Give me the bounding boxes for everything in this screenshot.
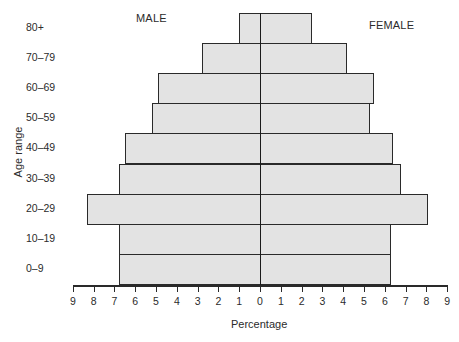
age-category-label: 10–19 — [26, 232, 55, 244]
male-bar — [119, 254, 261, 285]
age-category-label: 80+ — [26, 21, 44, 33]
x-tick — [198, 285, 199, 292]
female-bar — [260, 254, 391, 285]
x-tick-label: 4 — [169, 295, 185, 307]
male-bar — [239, 13, 261, 44]
male-bar — [202, 43, 261, 74]
x-tick — [343, 285, 344, 292]
age-category-label: 40–49 — [26, 141, 55, 153]
x-tick-label: 0 — [252, 295, 268, 307]
age-category-label: 0–9 — [26, 262, 44, 274]
x-tick-label: 8 — [418, 295, 434, 307]
population-pyramid-chart: MALE FEMALE Age range Percentage 80+70–7… — [0, 0, 459, 342]
female-bar — [260, 103, 370, 134]
center-line — [260, 13, 262, 285]
x-tick — [302, 285, 303, 292]
x-tick — [447, 285, 448, 292]
x-tick — [94, 285, 95, 292]
age-category-label: 30–39 — [26, 172, 55, 184]
male-bar — [152, 103, 261, 134]
age-category-label: 20–29 — [26, 202, 55, 214]
x-tick — [114, 285, 115, 292]
x-tick — [260, 285, 261, 292]
male-bar — [125, 133, 261, 164]
male-title: MALE — [136, 12, 167, 24]
male-bar — [119, 164, 261, 195]
female-bar — [260, 224, 391, 255]
female-bar — [260, 164, 401, 195]
x-tick — [218, 285, 219, 292]
x-tick-label: 6 — [377, 295, 393, 307]
x-tick-label: 2 — [294, 295, 310, 307]
x-tick-label: 1 — [273, 295, 289, 307]
x-tick — [322, 285, 323, 292]
x-tick-label: 2 — [210, 295, 226, 307]
female-bar — [260, 13, 312, 44]
female-bar — [260, 194, 428, 225]
x-tick-label: 9 — [65, 295, 81, 307]
x-tick — [156, 285, 157, 292]
x-tick-label: 5 — [148, 295, 164, 307]
male-bar — [87, 194, 261, 225]
male-bar — [119, 224, 261, 255]
x-tick — [177, 285, 178, 292]
x-tick-label: 8 — [86, 295, 102, 307]
age-category-label: 60–69 — [26, 81, 55, 93]
x-tick — [385, 285, 386, 292]
x-tick-label: 7 — [106, 295, 122, 307]
age-category-label: 50–59 — [26, 111, 55, 123]
x-tick-label: 9 — [439, 295, 455, 307]
female-title: FEMALE — [369, 19, 414, 31]
x-tick-label: 3 — [190, 295, 206, 307]
x-tick — [364, 285, 365, 292]
x-axis-label: Percentage — [231, 318, 287, 330]
female-bar — [260, 133, 393, 164]
male-bar — [158, 73, 261, 104]
x-tick — [73, 285, 74, 292]
x-tick — [406, 285, 407, 292]
x-tick-label: 6 — [127, 295, 143, 307]
x-tick — [239, 285, 240, 292]
age-category-label: 70–79 — [26, 51, 55, 63]
x-tick-label: 7 — [398, 295, 414, 307]
female-bar — [260, 43, 347, 74]
x-tick — [281, 285, 282, 292]
y-axis-label: Age range — [12, 124, 24, 180]
female-bar — [260, 73, 374, 104]
x-tick — [135, 285, 136, 292]
x-tick-label: 4 — [335, 295, 351, 307]
x-tick — [426, 285, 427, 292]
x-tick-label: 3 — [314, 295, 330, 307]
x-tick-label: 5 — [356, 295, 372, 307]
x-tick-label: 1 — [231, 295, 247, 307]
